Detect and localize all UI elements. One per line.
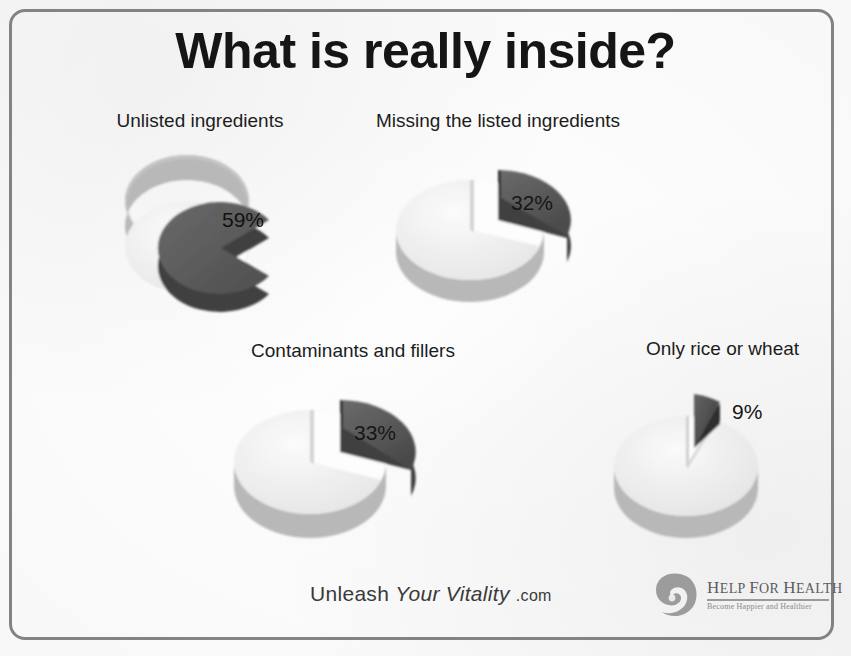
logo-swirl-icon	[650, 568, 704, 620]
poster-canvas: What is really inside? Unlisted ingredie…	[0, 0, 851, 656]
logo-divider	[707, 599, 829, 601]
logo-eal: EAL	[796, 581, 823, 596]
pie-2-percentage: 32%	[511, 191, 553, 215]
chart-title-missing-listed-ingredients: Missing the listed ingredients	[376, 110, 620, 132]
logo-elp: ELP	[720, 581, 746, 596]
pie-4-percentage: 9%	[732, 400, 762, 424]
brand-dotcom: .com	[516, 587, 552, 604]
pie-chart-contaminants-and-fillers: Contaminants and fillers	[218, 340, 488, 540]
pie-2-dark-wall	[498, 170, 501, 197]
logo-h1: H	[707, 578, 720, 597]
pie-1-percentage: 59%	[222, 208, 264, 232]
pie-3-percentage: 33%	[354, 421, 396, 445]
pie-chart-missing-listed-ingredients: Missing the listed ingredients	[368, 110, 628, 300]
help-for-health-logo: HELP FOR HEALTH Become Happier and Healt…	[650, 566, 835, 622]
pie-4-notch-wall-a	[686, 416, 689, 468]
brand-word-unleash: Unleash	[310, 582, 389, 605]
pie-chart-only-rice-or-wheat: Only rice or wheat	[610, 338, 835, 538]
logo-name: HELP FOR HEALTH	[707, 578, 842, 598]
pie-svg-4	[610, 372, 835, 567]
pie-stage-3: 33%	[218, 374, 488, 564]
pie-stage-1: 59%	[85, 144, 315, 319]
page-title: What is really inside?	[0, 22, 851, 80]
pie-2-notch-wall-a	[470, 180, 474, 232]
pie-3-notch-wall-a	[310, 410, 314, 464]
logo-th: TH	[823, 581, 842, 596]
logo-wordmark: HELP FOR HEALTH Become Happier and Healt…	[707, 578, 842, 611]
pie-stage-2: 32%	[368, 144, 628, 324]
brand-tagline: Unleash Your Vitality .com	[310, 582, 552, 606]
logo-h2: H	[783, 578, 796, 597]
pie-chart-unlisted-ingredients: Unlisted ingredients	[85, 110, 315, 300]
chart-title-contaminants-and-fillers: Contaminants and fillers	[251, 340, 455, 362]
pie-svg-2	[368, 144, 628, 324]
pie-svg-1	[85, 144, 315, 319]
pie-stage-4: 9%	[610, 372, 835, 567]
brand-word-your-vitality: Your Vitality	[395, 582, 509, 605]
logo-or: OR	[759, 581, 779, 596]
chart-title-only-rice-or-wheat: Only rice or wheat	[646, 338, 799, 360]
pie-svg-3	[218, 374, 488, 564]
chart-title-unlisted-ingredients: Unlisted ingredients	[117, 110, 284, 132]
logo-tagline: Become Happier and Healthier	[707, 602, 842, 611]
logo-f: F	[749, 578, 759, 597]
pie-3-dark-wall	[340, 400, 343, 427]
